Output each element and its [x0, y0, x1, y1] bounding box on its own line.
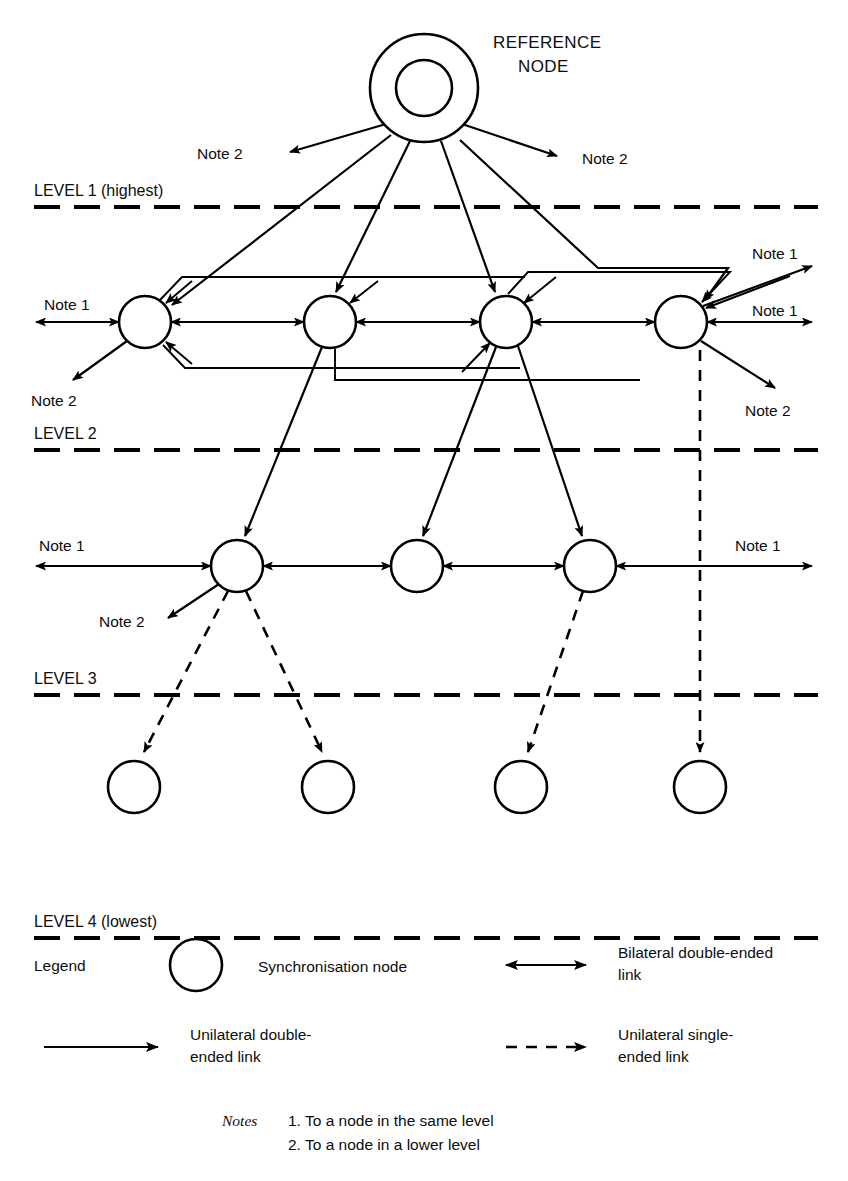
l3n1-to-l4n2-dashed-link — [246, 591, 322, 752]
l2n2-to-l3n1-link — [245, 347, 322, 536]
annotation-ref-note2-right: Note 2 — [582, 150, 628, 167]
annotation-level2-node4-note2: Note 2 — [745, 402, 791, 419]
level-4-label: LEVEL 4 (lowest) — [34, 913, 157, 930]
l2n3-to-l3n3-link — [518, 346, 582, 536]
annotation-level3-note1-left: Note 1 — [39, 537, 85, 554]
legend-title: Legend — [34, 957, 86, 974]
note-item-1: 1. To a node in the same level — [288, 1112, 494, 1129]
level3-node-1[interactable] — [211, 540, 263, 592]
level2-node1-sw-note2-link — [73, 341, 127, 380]
annotation-level2-node4-note1-upper: Note 1 — [752, 245, 798, 262]
annotation-level2-node4-note1-lower: Note 1 — [752, 302, 798, 319]
level2-to-level3-links — [245, 346, 582, 536]
legend: Legend Synchronisation node Bilateral do… — [34, 939, 773, 1065]
level2-into-node4-nw-link — [600, 272, 730, 302]
level3-node-2[interactable] — [391, 540, 443, 592]
level2-into-node3-ne-arrow — [524, 277, 556, 303]
level2-node-4[interactable] — [655, 296, 707, 348]
level-1-label: LEVEL 1 (highest) — [34, 182, 163, 199]
reference-node-label-line2: NODE — [518, 57, 569, 76]
annotation-ref-note2-left: Note 2 — [197, 145, 243, 162]
level2-into-node2-ne-arrow — [350, 281, 378, 303]
legend-unilateral-double-label-line2: ended link — [190, 1048, 261, 1065]
level4-node-2[interactable] — [302, 761, 354, 813]
ref-note2-left-link — [290, 124, 386, 152]
level2-node-3[interactable] — [480, 296, 532, 348]
synchronisation-hierarchy-figure: REFERENCE NODE LEVEL 1 (highest) LEVEL 2… — [0, 0, 848, 1181]
legend-sync-node-symbol — [170, 939, 222, 991]
annotation-level2-node1-note2: Note 2 — [31, 392, 77, 409]
level4-node-1[interactable] — [108, 761, 160, 813]
diagram-canvas: REFERENCE NODE LEVEL 1 (highest) LEVEL 2… — [0, 0, 848, 1181]
level4-node-4[interactable] — [674, 761, 726, 813]
ref-note2-right-link — [462, 124, 557, 156]
level3-node1-sw-note2-link — [168, 584, 219, 618]
legend-unilateral-double-label-line1: Unilateral double- — [190, 1026, 312, 1043]
level4-nodes — [108, 761, 726, 813]
level2-lower-bus-link — [163, 345, 520, 368]
legend-unilateral-single-label-line2: ended link — [618, 1048, 689, 1065]
level-2-label: LEVEL 2 — [34, 425, 97, 442]
level2-node4-se-note2-link — [701, 341, 775, 388]
note-item-2: 2. To a node in a lower level — [288, 1136, 480, 1153]
level2-node-1[interactable] — [119, 296, 171, 348]
ref-to-level2-node2-link — [336, 141, 410, 292]
l3n1-to-l4n1-dashed-link — [144, 591, 228, 752]
annotation-level2-node1-note1: Note 1 — [44, 296, 90, 313]
reference-node-inner-circle — [396, 60, 452, 116]
level-3-label: LEVEL 3 — [34, 670, 97, 687]
legend-bilateral-label-line1: Bilateral double-ended — [618, 944, 773, 961]
legend-bilateral-label-line2: link — [618, 966, 642, 983]
level2-node-2[interactable] — [304, 296, 356, 348]
reference-node-label-line1: REFERENCE — [493, 33, 601, 52]
level4-node-3[interactable] — [495, 761, 547, 813]
reference-node[interactable] — [370, 34, 478, 142]
legend-sync-node-label: Synchronisation node — [258, 958, 407, 975]
legend-unilateral-single-label-line1: Unilateral single- — [618, 1026, 733, 1043]
notes-title: Notes — [221, 1112, 257, 1129]
level3-node-3[interactable] — [564, 540, 616, 592]
annotation-level3-note2-left: Note 2 — [99, 613, 145, 630]
l3n3-to-l4n3-dashed-link — [528, 591, 583, 752]
notes-block: Notes 1. To a node in the same level 2. … — [221, 1112, 494, 1153]
annotation-level3-note1-right: Note 1 — [735, 537, 781, 554]
l2n3-to-l3n2-link — [423, 347, 496, 536]
level2-n3-to-n1-routed-link — [508, 272, 660, 294]
level2-lower-bus-right-link — [335, 349, 640, 380]
